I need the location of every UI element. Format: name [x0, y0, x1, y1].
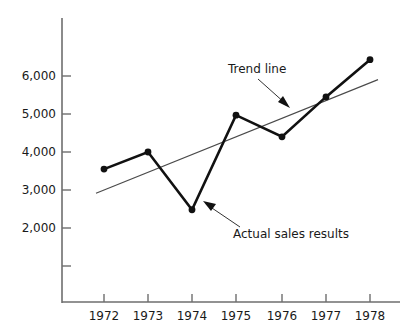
sales-trend-line-chart: 6,000 5,000 4,000 3,000 2,000 1972 1973 …: [0, 0, 414, 334]
data-point-marker: [189, 206, 196, 213]
x-tick-label-1973: 1973: [133, 309, 164, 323]
trend-line-annotation-label: Trend line: [227, 62, 286, 76]
y-tick-label-2000: 2,000: [22, 221, 56, 235]
x-tick-label-1975: 1975: [221, 309, 252, 323]
chart-canvas: 6,000 5,000 4,000 3,000 2,000 1972 1973 …: [0, 0, 414, 334]
y-tick-label-3000: 3,000: [22, 183, 56, 197]
data-point-marker: [101, 166, 108, 173]
x-tick-label-1978: 1978: [355, 309, 386, 323]
x-tick-label-1972: 1972: [89, 309, 120, 323]
data-point-marker: [233, 112, 240, 119]
y-tick-label-4000: 4,000: [22, 145, 56, 159]
data-point-marker: [367, 56, 374, 63]
data-point-marker: [279, 133, 286, 140]
x-tick-label-1976: 1976: [267, 309, 298, 323]
data-point-marker: [323, 94, 330, 101]
x-tick-label-1974: 1974: [177, 309, 208, 323]
y-tick-label-5000: 5,000: [22, 107, 56, 121]
actual-sales-annotation-label: Actual sales results: [233, 227, 349, 241]
x-tick-label-1977: 1977: [311, 309, 342, 323]
y-tick-label-6000: 6,000: [22, 69, 56, 83]
data-point-marker: [145, 149, 152, 156]
